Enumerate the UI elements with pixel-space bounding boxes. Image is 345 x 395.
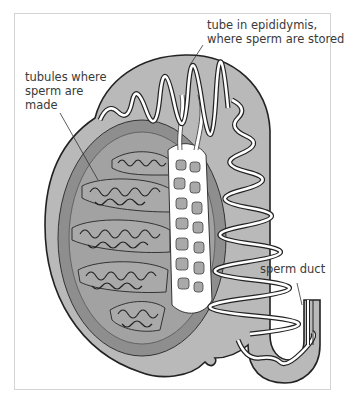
label-epididymis-tube: tube in epididymis, where sperm are stor… bbox=[207, 18, 344, 46]
label-sperm-duct: sperm duct bbox=[260, 262, 325, 276]
testis-diagram bbox=[0, 0, 345, 395]
label-tubules: tubules where sperm are made bbox=[25, 70, 107, 112]
